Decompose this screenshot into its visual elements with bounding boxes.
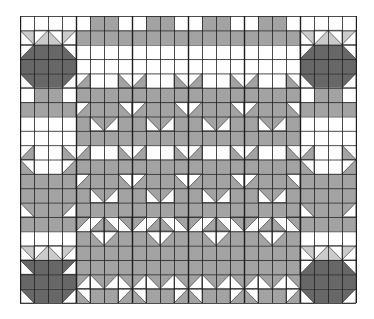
quilt-cell — [34, 217, 48, 231]
quilt-cell — [20, 231, 34, 245]
quilt-cell — [34, 203, 48, 217]
quilt-cell — [272, 45, 286, 59]
quilt-cell — [76, 188, 90, 202]
quilt-cell — [314, 131, 328, 145]
quilt-cell — [202, 260, 216, 274]
quilt-cell — [132, 45, 146, 59]
quilt-cell — [20, 174, 34, 188]
quilt-cell — [328, 203, 342, 217]
quilt-cell — [132, 260, 146, 274]
quilt-cell — [272, 59, 286, 73]
quilt-cell — [272, 88, 286, 102]
quilt-cell — [300, 174, 314, 188]
quilt-cell — [258, 16, 272, 30]
quilt-cell — [188, 116, 202, 130]
quilt-cell — [342, 188, 356, 202]
quilt-cell — [230, 45, 244, 59]
quilt-cell — [48, 289, 62, 303]
quilt-cell — [286, 246, 300, 260]
quilt-cell — [90, 246, 104, 260]
quilt-cell — [328, 131, 342, 145]
quilt-cell — [188, 45, 202, 59]
quilt-cell — [48, 274, 62, 288]
quilt-cell — [300, 274, 314, 288]
quilt-cell — [118, 88, 132, 102]
quilt-cell — [90, 102, 104, 116]
quilt-cell — [258, 73, 272, 87]
quilt-cell — [62, 274, 76, 288]
quilt-cell — [202, 131, 216, 145]
quilt-cell — [160, 246, 174, 260]
quilt-cell — [174, 30, 188, 44]
quilt-cell — [328, 16, 342, 30]
quilt-cell — [20, 217, 34, 231]
quilt-cell — [104, 88, 118, 102]
quilt-cell — [230, 203, 244, 217]
quilt-cell — [216, 16, 230, 30]
quilt-cell — [244, 203, 258, 217]
quilt-cell — [174, 231, 188, 245]
quilt-cell — [90, 289, 104, 303]
quilt-cell — [314, 217, 328, 231]
quilt-cell — [62, 88, 76, 102]
quilt-cell — [20, 88, 34, 102]
quilt-cell — [34, 116, 48, 130]
quilt-cell — [48, 260, 62, 274]
quilt-pattern-grid — [20, 16, 357, 304]
quilt-cell — [48, 73, 62, 87]
quilt-cell — [314, 203, 328, 217]
quilt-cell — [286, 260, 300, 274]
quilt-cell — [258, 88, 272, 102]
quilt-cell — [272, 246, 286, 260]
quilt-cell — [188, 188, 202, 202]
quilt-cell — [258, 45, 272, 59]
quilt-cell — [62, 188, 76, 202]
quilt-cell — [216, 145, 230, 159]
quilt-cell — [90, 59, 104, 73]
quilt-cell — [202, 289, 216, 303]
quilt-cell — [90, 131, 104, 145]
quilt-cell — [48, 231, 62, 245]
quilt-cell — [90, 16, 104, 30]
quilt-cell — [258, 174, 272, 188]
quilt-cell — [286, 30, 300, 44]
quilt-cell — [34, 289, 48, 303]
quilt-cell — [286, 231, 300, 245]
quilt-cell — [146, 30, 160, 44]
quilt-cell — [230, 16, 244, 30]
quilt-cell — [300, 231, 314, 245]
quilt-cell — [202, 174, 216, 188]
quilt-cell — [90, 203, 104, 217]
quilt-cell — [328, 59, 342, 73]
quilt-cell — [328, 160, 342, 174]
quilt-cell — [104, 260, 118, 274]
quilt-cell — [202, 16, 216, 30]
quilt-cell — [118, 30, 132, 44]
quilt-cell — [34, 160, 48, 174]
quilt-cell — [48, 59, 62, 73]
quilt-cell — [174, 45, 188, 59]
quilt-cell — [314, 174, 328, 188]
quilt-cell — [90, 174, 104, 188]
quilt-cell — [342, 174, 356, 188]
quilt-cell — [34, 131, 48, 145]
quilt-cell — [146, 102, 160, 116]
quilt-cell — [174, 88, 188, 102]
quilt-cell — [216, 160, 230, 174]
quilt-cell — [174, 59, 188, 73]
quilt-cell — [286, 116, 300, 130]
quilt-cell — [202, 160, 216, 174]
quilt-cell — [328, 45, 342, 59]
quilt-cell — [104, 246, 118, 260]
quilt-cell — [244, 231, 258, 245]
quilt-cell — [272, 30, 286, 44]
quilt-cell — [202, 246, 216, 260]
quilt-cell — [258, 260, 272, 274]
quilt-cell — [314, 145, 328, 159]
quilt-cell — [258, 246, 272, 260]
quilt-cell — [118, 246, 132, 260]
quilt-cell — [34, 174, 48, 188]
quilt-cell — [286, 16, 300, 30]
quilt-cell — [258, 160, 272, 174]
quilt-cell — [230, 131, 244, 145]
